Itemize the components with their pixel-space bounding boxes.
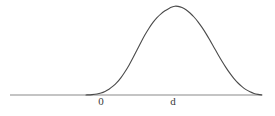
gaussian-curve bbox=[86, 6, 262, 95]
x-axis-label-d: d bbox=[166, 96, 180, 107]
bell-curve-figure: 0 d bbox=[0, 0, 275, 116]
plot-canvas bbox=[0, 0, 275, 116]
x-axis-label-zero: 0 bbox=[94, 96, 108, 107]
